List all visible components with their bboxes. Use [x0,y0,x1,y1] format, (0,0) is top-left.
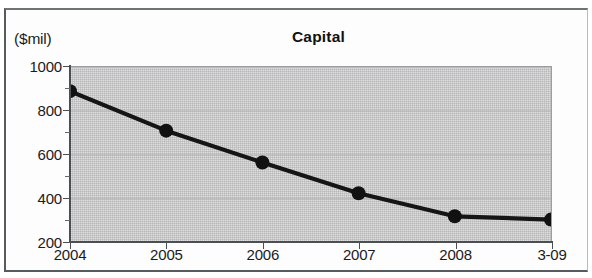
chart-title: Capital [6,28,587,46]
y-minor-tick-500 [65,176,70,177]
x-tick-2004 [70,243,71,249]
x-tick-3-09 [552,243,553,249]
figure-frame: ($mil) Capital 2004006008001000 20042005… [4,8,588,272]
y-major-tick-800 [63,110,70,111]
x-tick-2006 [263,243,264,249]
y-tick-label-400: 400 [6,190,62,207]
y-axis-tick-labels: 2004006008001000 [6,10,66,278]
data-point-2005 [159,124,173,138]
figure-canvas: ($mil) Capital 2004006008001000 20042005… [6,10,587,270]
x-tick-2005 [166,243,167,249]
y-minor-tick-900 [65,88,70,89]
data-point-2008 [448,209,462,223]
y-major-tick-600 [63,154,70,155]
y-minor-tick-300 [65,220,70,221]
data-point-2006 [255,156,269,170]
x-tick-2007 [359,243,360,249]
y-tick-label-800: 800 [6,102,62,119]
plot-area [70,66,552,242]
y-tick-label-1000: 1000 [6,58,62,75]
y-tick-label-600: 600 [6,146,62,163]
y-minor-tick-700 [65,132,70,133]
data-point-2007 [352,186,366,200]
data-point-markers [70,84,551,226]
y-major-tick-200 [63,242,70,243]
y-major-tick-400 [63,198,70,199]
x-axis-line [69,241,553,243]
y-major-tick-1000 [63,66,70,67]
x-tick-2008 [456,243,457,249]
line-chart-svg [70,67,551,243]
data-point-2004 [70,84,77,98]
data-point-3-09 [544,213,551,227]
